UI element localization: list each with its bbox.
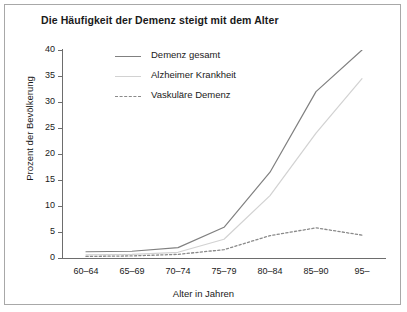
- y-axis-tick-label: 15: [15, 175, 55, 184]
- y-axis-tick-label: 40: [15, 45, 55, 54]
- series-line: [86, 228, 362, 257]
- x-axis-title: Alter in Jahren: [5, 288, 402, 299]
- y-axis-tick-label: 20: [15, 149, 55, 158]
- y-axis-tick-label: 0: [15, 253, 55, 262]
- y-axis-tick: [58, 128, 62, 129]
- y-axis-tick: [58, 232, 62, 233]
- series-line: [86, 50, 362, 252]
- y-axis-tick: [58, 258, 62, 259]
- plot-area: [63, 50, 385, 258]
- y-axis-tick: [58, 206, 62, 207]
- y-axis-tick-label: 35: [15, 71, 55, 80]
- y-axis-tick: [58, 154, 62, 155]
- y-axis-tick: [58, 50, 62, 51]
- y-axis-tick-label: 25: [15, 123, 55, 132]
- y-axis-tick: [58, 102, 62, 103]
- y-axis-tick-label: 5: [15, 227, 55, 236]
- chart-frame: Die Häufigkeit der Demenz steigt mit dem…: [4, 4, 401, 305]
- x-axis-tick-label: 95–: [332, 267, 392, 276]
- y-axis-tick: [58, 76, 62, 77]
- y-axis-tick: [58, 180, 62, 181]
- x-axis-line: [62, 258, 386, 259]
- y-axis-tick-label: 10: [15, 201, 55, 210]
- y-axis-title: Prozent der Bevölkerung: [24, 59, 35, 199]
- chart-title: Die Häufigkeit der Demenz steigt mit dem…: [41, 14, 279, 26]
- y-axis-tick-label: 30: [15, 97, 55, 106]
